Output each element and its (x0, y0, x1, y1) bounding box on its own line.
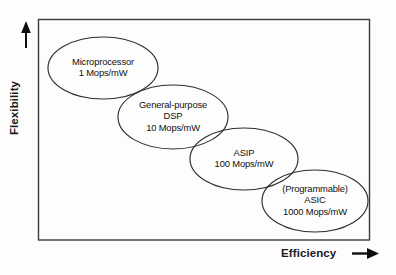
y-axis-label: Flexibility (8, 73, 20, 143)
up-arrow-icon (21, 21, 31, 48)
chart-canvas (0, 0, 396, 275)
x-axis-label: Efficiency (281, 247, 336, 259)
flexibility-efficiency-chart: Microprocessor 1 Mops/mW General-purpose… (0, 0, 396, 275)
right-arrow-icon (352, 248, 379, 259)
bubble-microprocessor[interactable] (48, 37, 158, 99)
bubble-programmable-asic[interactable] (262, 170, 368, 232)
